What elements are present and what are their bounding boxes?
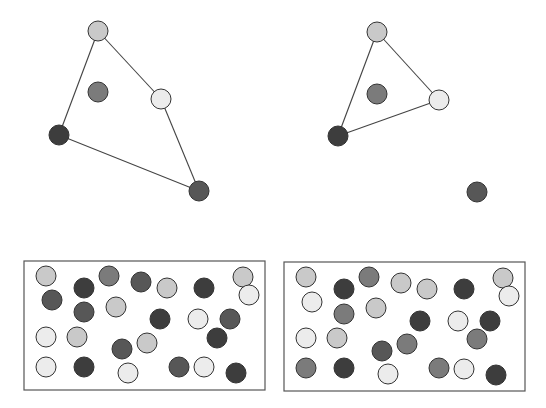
box-ball-pale — [118, 363, 138, 383]
box-ball-darkmedium — [131, 272, 151, 292]
box-ball-darkmedium — [220, 309, 240, 329]
box-ball-darkmedium — [112, 339, 132, 359]
box-ball-pale — [36, 327, 56, 347]
box-ball-medium — [359, 267, 379, 287]
graph-edge — [338, 100, 439, 136]
box-ball-pale — [36, 357, 56, 377]
box-ball-dark — [207, 328, 227, 348]
box-ball-medium — [467, 329, 487, 349]
graph-left — [49, 21, 209, 201]
box-ball-darkmedium — [42, 290, 62, 310]
box-ball-light — [137, 333, 157, 353]
box-ball-light — [417, 279, 437, 299]
box-ball-dark — [194, 278, 214, 298]
box-ball-dark — [150, 309, 170, 329]
graph-node-dark — [328, 126, 348, 146]
box-ball-dark — [74, 278, 94, 298]
box-ball-light — [36, 266, 56, 286]
box-ball-pale — [378, 364, 398, 384]
box-ball-pale — [302, 292, 322, 312]
graph-node-dark — [49, 125, 69, 145]
graph-edge — [338, 32, 377, 136]
box-ball-dark — [480, 311, 500, 331]
box-ball-darkmedium — [169, 357, 189, 377]
box-ball-pale — [454, 359, 474, 379]
graph-node-medium — [367, 84, 387, 104]
box-ball-medium — [99, 266, 119, 286]
box-ball-dark — [334, 279, 354, 299]
graph-node-light — [88, 21, 108, 41]
box-ball-dark — [454, 279, 474, 299]
box-ball-light — [296, 267, 316, 287]
box-ball-light — [67, 327, 87, 347]
graph-edge — [59, 31, 98, 135]
box-ball-light — [157, 278, 177, 298]
box-ball-dark — [486, 365, 506, 385]
box-ball-pale — [296, 328, 316, 348]
graph-right — [328, 22, 487, 202]
box-ball-medium — [334, 304, 354, 324]
graph-node-pale — [429, 90, 449, 110]
box-ball-medium — [397, 334, 417, 354]
box-left — [24, 261, 265, 390]
graph-node-darkmedium — [189, 181, 209, 201]
box-ball-dark — [226, 363, 246, 383]
box-ball-light — [391, 273, 411, 293]
box-ball-pale — [194, 357, 214, 377]
box-ball-light — [327, 328, 347, 348]
box-ball-pale — [239, 285, 259, 305]
graph-edge — [161, 99, 199, 191]
box-ball-light — [366, 298, 386, 318]
box-ball-pale — [499, 286, 519, 306]
box-ball-dark — [334, 358, 354, 378]
box-ball-darkmedium — [74, 302, 94, 322]
box-ball-medium — [296, 358, 316, 378]
box-ball-darkmedium — [372, 341, 392, 361]
box-right — [284, 262, 525, 391]
graph-node-medium — [88, 82, 108, 102]
box-ball-dark — [74, 357, 94, 377]
box-ball-light — [493, 268, 513, 288]
box-ball-light — [106, 297, 126, 317]
box-ball-pale — [188, 309, 208, 329]
graph-node-pale — [151, 89, 171, 109]
graph-node-light — [367, 22, 387, 42]
diagram-canvas — [0, 0, 546, 408]
graph-node-darkmedium — [467, 182, 487, 202]
graph-edge — [59, 135, 199, 191]
box-ball-dark — [410, 311, 430, 331]
box-ball-light — [233, 267, 253, 287]
box-ball-pale — [448, 311, 468, 331]
box-ball-medium — [429, 358, 449, 378]
